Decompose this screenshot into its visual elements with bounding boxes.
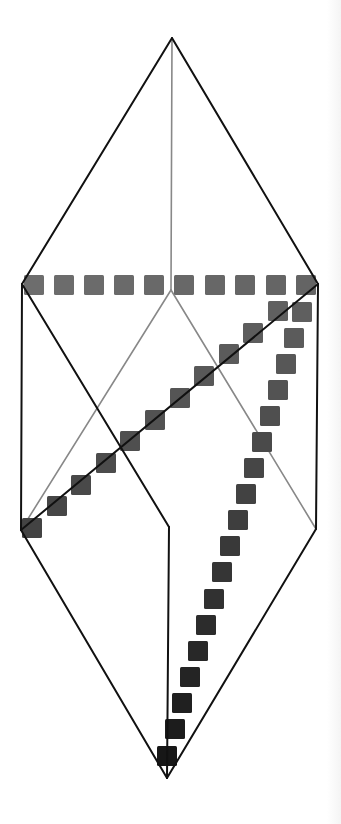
outline-edge xyxy=(172,38,318,284)
lattice-square xyxy=(84,275,104,295)
outline-edge xyxy=(22,38,172,284)
lattice-square xyxy=(236,484,256,504)
lattice-square xyxy=(54,275,74,295)
lattice-square xyxy=(266,275,286,295)
lattice-square xyxy=(188,641,208,661)
lattice-square xyxy=(180,667,200,687)
lattice-square xyxy=(144,275,164,295)
lattice-square xyxy=(205,275,225,295)
lattice-square xyxy=(268,380,288,400)
lattice-square xyxy=(114,275,134,295)
lattice-square xyxy=(220,536,240,556)
lattice-square xyxy=(196,615,216,635)
outline-edge xyxy=(21,530,167,778)
lattice-squares xyxy=(22,275,316,766)
lattice-square xyxy=(296,275,316,295)
outline-edge xyxy=(21,284,22,530)
lattice-square xyxy=(235,275,255,295)
lattice-square xyxy=(284,328,304,348)
hidden-edge xyxy=(171,38,172,290)
lattice-square xyxy=(172,693,192,713)
lattice-square xyxy=(252,432,272,452)
lattice-square xyxy=(204,589,224,609)
lattice-square xyxy=(174,275,194,295)
lattice-square xyxy=(219,344,239,364)
lattice-square xyxy=(212,562,232,582)
lattice-square xyxy=(244,458,264,478)
lattice-square xyxy=(228,510,248,530)
lattice-square xyxy=(260,406,280,426)
rhombohedron-diagram xyxy=(0,0,341,824)
lattice-square xyxy=(292,302,312,322)
lattice-square xyxy=(276,354,296,374)
outline-edge xyxy=(316,284,318,529)
outline-edge xyxy=(22,284,169,527)
lattice-square xyxy=(96,453,116,473)
steep-diagonal-path xyxy=(157,302,312,766)
outline-edge xyxy=(167,527,169,778)
